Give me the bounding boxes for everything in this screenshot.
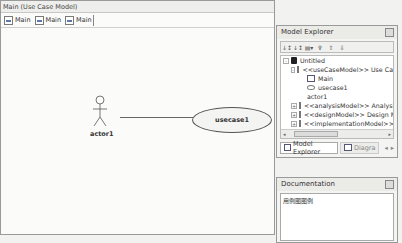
expand-icon[interactable]: + <box>291 103 297 109</box>
tree-label: usecase1 <box>318 83 348 92</box>
documentation-panel: Documentation 用例图图例 <box>276 177 398 243</box>
tree-label: Main <box>318 74 333 83</box>
filter-icon[interactable]: ♆ <box>316 43 324 51</box>
scrollbar-thumb[interactable] <box>294 131 338 137</box>
tab-diagram-explorer[interactable]: Diagra <box>340 142 380 154</box>
model-explorer-panel: Model Explorer ↓↕ ↓↕ ▤▾ ♆ ⇧ ⇩ - Untitled… <box>276 25 398 158</box>
tree-label: <<analysisModel>> Analysi <box>304 101 394 110</box>
tab-label: Main <box>76 16 92 24</box>
usecase-icon <box>307 85 315 90</box>
tab-scroll-right-icon[interactable]: ▸ <box>391 144 394 152</box>
tab-separator <box>93 15 94 26</box>
maximize-button[interactable] <box>385 28 394 37</box>
panel-title-text: Model Explorer <box>281 28 333 36</box>
horizontal-scrollbar[interactable]: ◂ ▸ <box>281 129 393 138</box>
collapse-icon[interactable]: - <box>291 67 295 73</box>
tab-label: Model Explorer <box>293 140 334 156</box>
tree-item-design-model[interactable]: + <<designModel>> Design M <box>281 110 393 119</box>
explorer-toolbar: ↓↕ ↓↕ ▤▾ ♆ ⇧ ⇩ <box>280 41 394 53</box>
usecase-shape[interactable]: usecase1 <box>192 107 272 133</box>
usecase-label: usecase1 <box>215 116 249 124</box>
sort-type-icon[interactable]: ↓↕ <box>294 43 302 51</box>
scroll-right-icon[interactable]: ▸ <box>388 131 391 137</box>
tab-main-3[interactable]: Main <box>65 15 94 26</box>
model-tree[interactable]: - Untitled - <<useCaseModel>> Use Ca Mai… <box>280 55 394 139</box>
tree-item-analysis-model[interactable]: + <<analysisModel>> Analysi <box>281 101 393 110</box>
project-icon <box>291 57 297 64</box>
collapse-icon[interactable]: - <box>283 58 289 64</box>
diagram-icon <box>65 16 74 25</box>
diagram-icon <box>4 16 13 25</box>
diagram-tabbar: Main Main Main <box>1 13 274 28</box>
diagram-explorer-icon <box>344 144 352 151</box>
model-explorer-icon <box>284 144 291 151</box>
documentation-title: Documentation <box>277 178 397 191</box>
tab-main-1[interactable]: Main <box>4 16 31 25</box>
tree-label: <<implementationModel>> <box>304 119 394 128</box>
move-up-icon[interactable]: ⇧ <box>327 43 335 51</box>
sort-alpha-icon[interactable]: ↓↕ <box>283 43 291 51</box>
tab-main-2[interactable]: Main <box>35 16 62 25</box>
tree-label: Untitled <box>300 56 325 65</box>
actor-label: actor1 <box>90 130 114 138</box>
expand-icon[interactable]: + <box>291 121 297 127</box>
tree-label: <<designModel>> Design M <box>304 110 394 119</box>
documentation-textarea[interactable]: 用例图图例 <box>280 193 394 241</box>
add-element-dropdown-icon[interactable]: ▤▾ <box>305 43 313 51</box>
tab-scroll-left-icon[interactable]: ◂ <box>384 144 387 152</box>
explorer-bottom-tabs: Model Explorer Diagra ◂ ▸ <box>280 141 394 154</box>
diagram-icon <box>35 16 44 25</box>
diagram-icon <box>307 75 315 82</box>
panel-title-text: Documentation <box>281 180 335 188</box>
scroll-left-icon[interactable]: ◂ <box>283 131 286 137</box>
actor-icon <box>90 95 110 129</box>
package-icon <box>297 66 300 73</box>
tab-label: Main <box>46 16 62 24</box>
tree-label: <<useCaseModel>> Use Ca <box>302 65 393 74</box>
tree-label: actor1 <box>307 92 327 101</box>
tree-item-usecase-model[interactable]: - <<useCaseModel>> Use Ca <box>281 65 393 74</box>
package-icon <box>299 102 301 109</box>
editor-title: Main (Use Case Model) <box>1 1 274 13</box>
tab-model-explorer[interactable]: Model Explorer <box>280 142 338 154</box>
model-explorer-title: Model Explorer <box>277 26 397 39</box>
tree-item-actor1[interactable]: 웃 actor1 <box>281 92 393 101</box>
tab-label: Diagra <box>354 144 376 152</box>
tree-item-main-diagram[interactable]: Main <box>281 74 393 83</box>
actor-shape[interactable] <box>90 95 110 135</box>
expand-icon[interactable]: + <box>291 112 297 118</box>
maximize-button[interactable] <box>385 180 394 189</box>
association-line[interactable] <box>120 117 196 118</box>
tree-item-untitled[interactable]: - Untitled <box>281 56 393 65</box>
move-down-icon[interactable]: ⇩ <box>338 43 346 51</box>
package-icon <box>299 120 301 127</box>
package-icon <box>299 111 301 118</box>
documentation-text: 用例图图例 <box>283 197 313 204</box>
tree-item-usecase1[interactable]: usecase1 <box>281 83 393 92</box>
tree-item-implementation-model[interactable]: + <<implementationModel>> <box>281 119 393 128</box>
tab-label: Main <box>15 16 31 24</box>
